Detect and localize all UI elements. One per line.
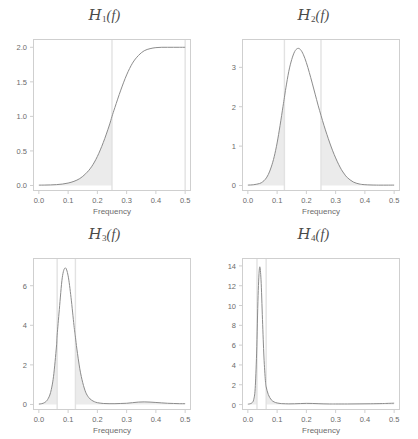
y-tick-label: 14 — [209, 261, 236, 270]
x-tick-label: 0.0 — [243, 196, 253, 205]
y-tick-label: 2 — [0, 360, 27, 369]
x-tick-label: 0.0 — [34, 196, 44, 205]
panel-title-4: H4(f) — [209, 225, 418, 243]
y-tick-label: 0 — [209, 181, 236, 190]
x-tick-label: 0.1 — [63, 415, 73, 424]
figure-panel-grid: H1(f) 0.00.10.20.30.40.50.00.51.01.52.0F… — [0, 0, 418, 439]
panel-title-2: H2(f) — [209, 6, 418, 24]
plot-area-3 — [33, 258, 191, 410]
x-tick-label: 0.2 — [301, 196, 311, 205]
x-tick-label: 0.3 — [121, 196, 131, 205]
x-tick-label: 0.3 — [330, 415, 340, 424]
x-axis-label: Frequency — [242, 426, 400, 435]
shaded-region — [321, 39, 394, 191]
y-tick-label: 10 — [209, 301, 236, 310]
y-tick-label: 4 — [209, 360, 236, 369]
shaded-region — [39, 39, 112, 191]
plot-area-2 — [242, 39, 400, 191]
curve-plot-4 — [242, 258, 400, 410]
curve-plot-3 — [33, 258, 191, 410]
shaded-region — [248, 39, 285, 191]
y-tick-label: 0 — [209, 400, 236, 409]
chart-panel-3: H3(f) 0.00.10.20.30.40.50246Frequency — [0, 219, 209, 438]
x-tick-label: 0.4 — [151, 196, 161, 205]
y-tick-label: 6 — [209, 341, 236, 350]
shaded-region — [266, 258, 394, 410]
x-tick-label: 0.0 — [243, 415, 253, 424]
panel-title-3: H3(f) — [0, 225, 209, 243]
x-axis-label: Frequency — [33, 426, 191, 435]
x-tick-label: 0.4 — [151, 415, 161, 424]
y-tick-label: 1.0 — [0, 112, 27, 121]
y-tick-label: 3 — [209, 63, 236, 72]
x-tick-label: 0.1 — [272, 196, 282, 205]
shaded-region — [39, 258, 57, 410]
panel-title-1: H1(f) — [0, 6, 209, 24]
x-axis-label: Frequency — [242, 207, 400, 216]
y-tick-label: 0.0 — [0, 181, 27, 190]
y-tick-label: 1.5 — [0, 77, 27, 86]
y-tick-label: 0.5 — [0, 146, 27, 155]
x-tick-label: 0.4 — [360, 415, 370, 424]
x-tick-label: 0.2 — [301, 415, 311, 424]
shaded-region — [75, 258, 185, 410]
chart-panel-2: H2(f) 0.00.10.20.30.40.50123Frequency — [209, 0, 418, 219]
x-tick-label: 0.0 — [34, 415, 44, 424]
y-tick-label: 2.0 — [0, 43, 27, 52]
y-tick-label: 1 — [209, 142, 236, 151]
x-axis-label: Frequency — [33, 207, 191, 216]
x-tick-label: 0.4 — [360, 196, 370, 205]
x-tick-label: 0.5 — [389, 196, 399, 205]
chart-panel-1: H1(f) 0.00.10.20.30.40.50.00.51.01.52.0F… — [0, 0, 209, 219]
x-tick-label: 0.5 — [389, 415, 399, 424]
data-curve — [39, 268, 185, 404]
y-tick-label: 6 — [0, 281, 27, 290]
x-tick-label: 0.1 — [272, 415, 282, 424]
y-tick-label: 8 — [209, 321, 236, 330]
plot-area-1 — [33, 39, 191, 191]
curve-plot-1 — [33, 39, 191, 191]
chart-panel-4: H4(f) 0.00.10.20.30.40.502468101214Frequ… — [209, 219, 418, 438]
x-tick-label: 0.1 — [63, 196, 73, 205]
y-tick-label: 12 — [209, 281, 236, 290]
data-curve — [248, 267, 394, 404]
x-tick-label: 0.5 — [180, 415, 190, 424]
y-tick-label: 2 — [209, 380, 236, 389]
y-tick-label: 4 — [0, 321, 27, 330]
y-tick-label: 0 — [0, 400, 27, 409]
x-tick-label: 0.5 — [180, 196, 190, 205]
plot-area-4 — [242, 258, 400, 410]
curve-plot-2 — [242, 39, 400, 191]
x-tick-label: 0.3 — [330, 196, 340, 205]
y-tick-label: 2 — [209, 102, 236, 111]
x-tick-label: 0.2 — [92, 196, 102, 205]
x-tick-label: 0.2 — [92, 415, 102, 424]
x-tick-label: 0.3 — [121, 415, 131, 424]
